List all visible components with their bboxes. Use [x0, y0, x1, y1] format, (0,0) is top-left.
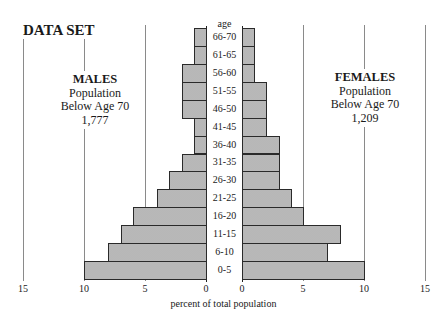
females-line1: Population [320, 85, 410, 99]
female-bar-16-20 [242, 207, 304, 226]
age-label-11-15: 11-15 [207, 228, 242, 240]
males-heading: MALES [50, 73, 140, 87]
female-bar-36-40 [242, 136, 280, 155]
female-bar-51-55 [242, 82, 267, 101]
female-bar-41-45 [242, 118, 267, 137]
female-bar-26-30 [242, 171, 280, 190]
gridline-right-10 [364, 25, 365, 281]
female-bar-46-50 [242, 100, 267, 119]
male-bar-6-10 [108, 243, 207, 262]
male-bar-41-45 [194, 118, 207, 137]
age-label-26-30: 26-30 [207, 174, 242, 186]
age-label-0-5: 0-5 [207, 264, 242, 276]
male-bar-26-30 [169, 171, 207, 190]
males-info-box: MALES Population Below Age 70 1,777 [50, 71, 140, 129]
x-axis-label: percent of total population [0, 298, 447, 309]
male-bar-36-40 [194, 136, 207, 155]
chart-title: DATA SET [22, 22, 96, 39]
gridline-left-15 [23, 36, 24, 281]
tick-right-10: 10 [352, 283, 376, 294]
male-bar-56-60 [182, 64, 207, 83]
males-line1: Population [50, 87, 140, 101]
male-bar-16-20 [133, 207, 207, 226]
males-line2: Below Age 70 [50, 100, 140, 114]
age-label-36-40: 36-40 [207, 139, 242, 151]
female-bar-56-60 [242, 64, 255, 83]
female-bar-66-70 [242, 28, 255, 47]
males-total: 1,777 [50, 114, 140, 128]
females-line2: Below Age 70 [320, 98, 410, 112]
age-label-56-60: 56-60 [207, 67, 242, 79]
male-bar-21-25 [157, 189, 207, 208]
male-bar-66-70 [194, 28, 207, 47]
age-label-6-10: 6-10 [207, 246, 242, 258]
age-label-21-25: 21-25 [207, 192, 242, 204]
female-bar-0-5 [242, 261, 365, 280]
age-label-51-55: 51-55 [207, 85, 242, 97]
male-bar-0-5 [84, 261, 207, 280]
male-bar-46-50 [182, 100, 207, 119]
tick-left-10: 10 [72, 283, 96, 294]
female-bar-61-65 [242, 46, 255, 65]
tick-right-5: 5 [291, 283, 315, 294]
female-bar-11-15 [242, 225, 341, 244]
age-label-46-50: 46-50 [207, 103, 242, 115]
tick-left-5: 5 [133, 283, 157, 294]
age-label-66-70: 66-70 [207, 31, 242, 43]
female-bar-31-35 [242, 154, 280, 173]
age-label-41-45: 41-45 [207, 121, 242, 133]
tick-right-15: 15 [413, 283, 437, 294]
age-label-61-65: 61-65 [207, 49, 242, 61]
male-bar-31-35 [182, 154, 207, 173]
female-bar-21-25 [242, 189, 292, 208]
gridline-right-15 [425, 25, 426, 281]
age-label-16-20: 16-20 [207, 210, 242, 222]
age-label-31-35: 31-35 [207, 156, 242, 168]
tick-right-0: 0 [230, 283, 254, 294]
females-total: 1,209 [320, 112, 410, 126]
female-bar-6-10 [242, 243, 328, 262]
females-info-box: FEMALES Population Below Age 70 1,209 [320, 69, 410, 127]
tick-left-15: 15 [11, 283, 35, 294]
population-pyramid-chart: 66-7061-6556-6051-5546-5041-4536-4031-35… [0, 0, 447, 325]
females-heading: FEMALES [320, 71, 410, 85]
age-axis-label: age [207, 18, 242, 29]
male-bar-11-15 [121, 225, 207, 244]
male-bar-51-55 [182, 82, 207, 101]
male-bar-61-65 [194, 46, 207, 65]
tick-left-0: 0 [194, 283, 218, 294]
